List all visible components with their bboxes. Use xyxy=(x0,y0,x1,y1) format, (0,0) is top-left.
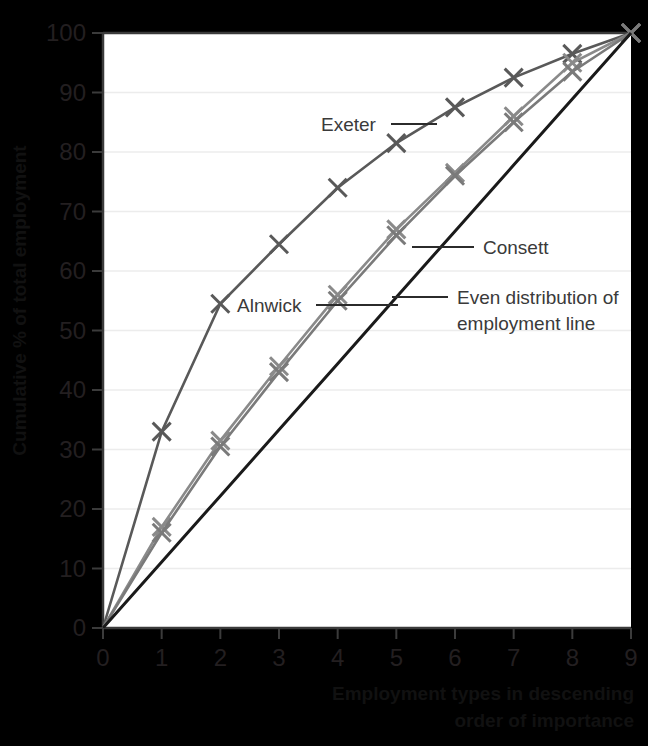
x-tick-label: 7 xyxy=(507,644,520,671)
x-tick-label: 0 xyxy=(96,644,109,671)
y-tick-label: 50 xyxy=(59,317,86,344)
y-tick-label: 40 xyxy=(59,376,86,403)
chart-page: 0102030405060708090100 0123456789 Exeter… xyxy=(0,0,648,746)
x-tick-label: 4 xyxy=(331,644,344,671)
x-tick-label: 9 xyxy=(624,644,637,671)
y-tick-label: 10 xyxy=(59,555,86,582)
x-axis-title-line: Employment types in descending xyxy=(332,683,634,704)
annotation-label: Even distribution of xyxy=(457,287,619,308)
x-tick-label: 2 xyxy=(214,644,227,671)
x-tick-label: 1 xyxy=(155,644,168,671)
x-tick-label: 5 xyxy=(390,644,403,671)
x-tick-label: 6 xyxy=(448,644,461,671)
y-tick-label: 100 xyxy=(46,19,86,46)
y-tick-label: 80 xyxy=(59,138,86,165)
annotation-label: employment line xyxy=(457,313,595,334)
annotation-label: Alnwick xyxy=(237,295,302,316)
y-tick-label: 70 xyxy=(59,198,86,225)
y-tick-label: 60 xyxy=(59,257,86,284)
annotation-label: Exeter xyxy=(321,114,377,135)
y-axis-title: Cumulative % of total employment xyxy=(9,145,30,456)
x-axis-title-line: order of importance xyxy=(455,710,634,731)
y-tick-label: 30 xyxy=(59,436,86,463)
y-tick-label: 20 xyxy=(59,495,86,522)
lorenz-curve-chart: 0102030405060708090100 0123456789 Exeter… xyxy=(0,0,648,746)
y-tick-label: 0 xyxy=(73,614,86,641)
x-tick-label: 3 xyxy=(272,644,285,671)
y-tick-label: 90 xyxy=(59,79,86,106)
x-tick-label: 8 xyxy=(566,644,579,671)
annotation-label: Consett xyxy=(483,237,549,258)
